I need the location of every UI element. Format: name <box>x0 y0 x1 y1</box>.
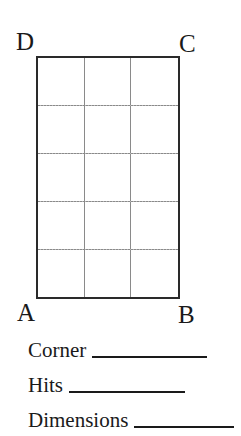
field-corner: Corner <box>28 340 207 361</box>
answer-blank-hits[interactable] <box>69 390 185 393</box>
grid-vertical-line <box>84 58 85 297</box>
grid-horizontal-line <box>38 249 178 250</box>
field-label-hits: Hits <box>28 375 63 396</box>
field-label-corner: Corner <box>28 340 86 361</box>
corner-label-b: B <box>178 302 195 327</box>
answer-blank-dimensions[interactable] <box>134 425 234 428</box>
field-hits: Hits <box>28 375 185 396</box>
grid-horizontal-line <box>38 105 178 106</box>
field-label-dimensions: Dimensions <box>28 410 128 431</box>
grid-vertical-line <box>130 58 131 297</box>
grid-horizontal-line <box>38 153 178 154</box>
corner-label-d: D <box>16 29 34 54</box>
answer-blank-corner[interactable] <box>92 355 207 358</box>
rectangle-grid <box>36 56 180 299</box>
grid-horizontal-line <box>38 201 178 202</box>
corner-label-a: A <box>17 300 35 325</box>
field-dimensions: Dimensions <box>28 410 234 431</box>
corner-label-c: C <box>179 31 196 56</box>
